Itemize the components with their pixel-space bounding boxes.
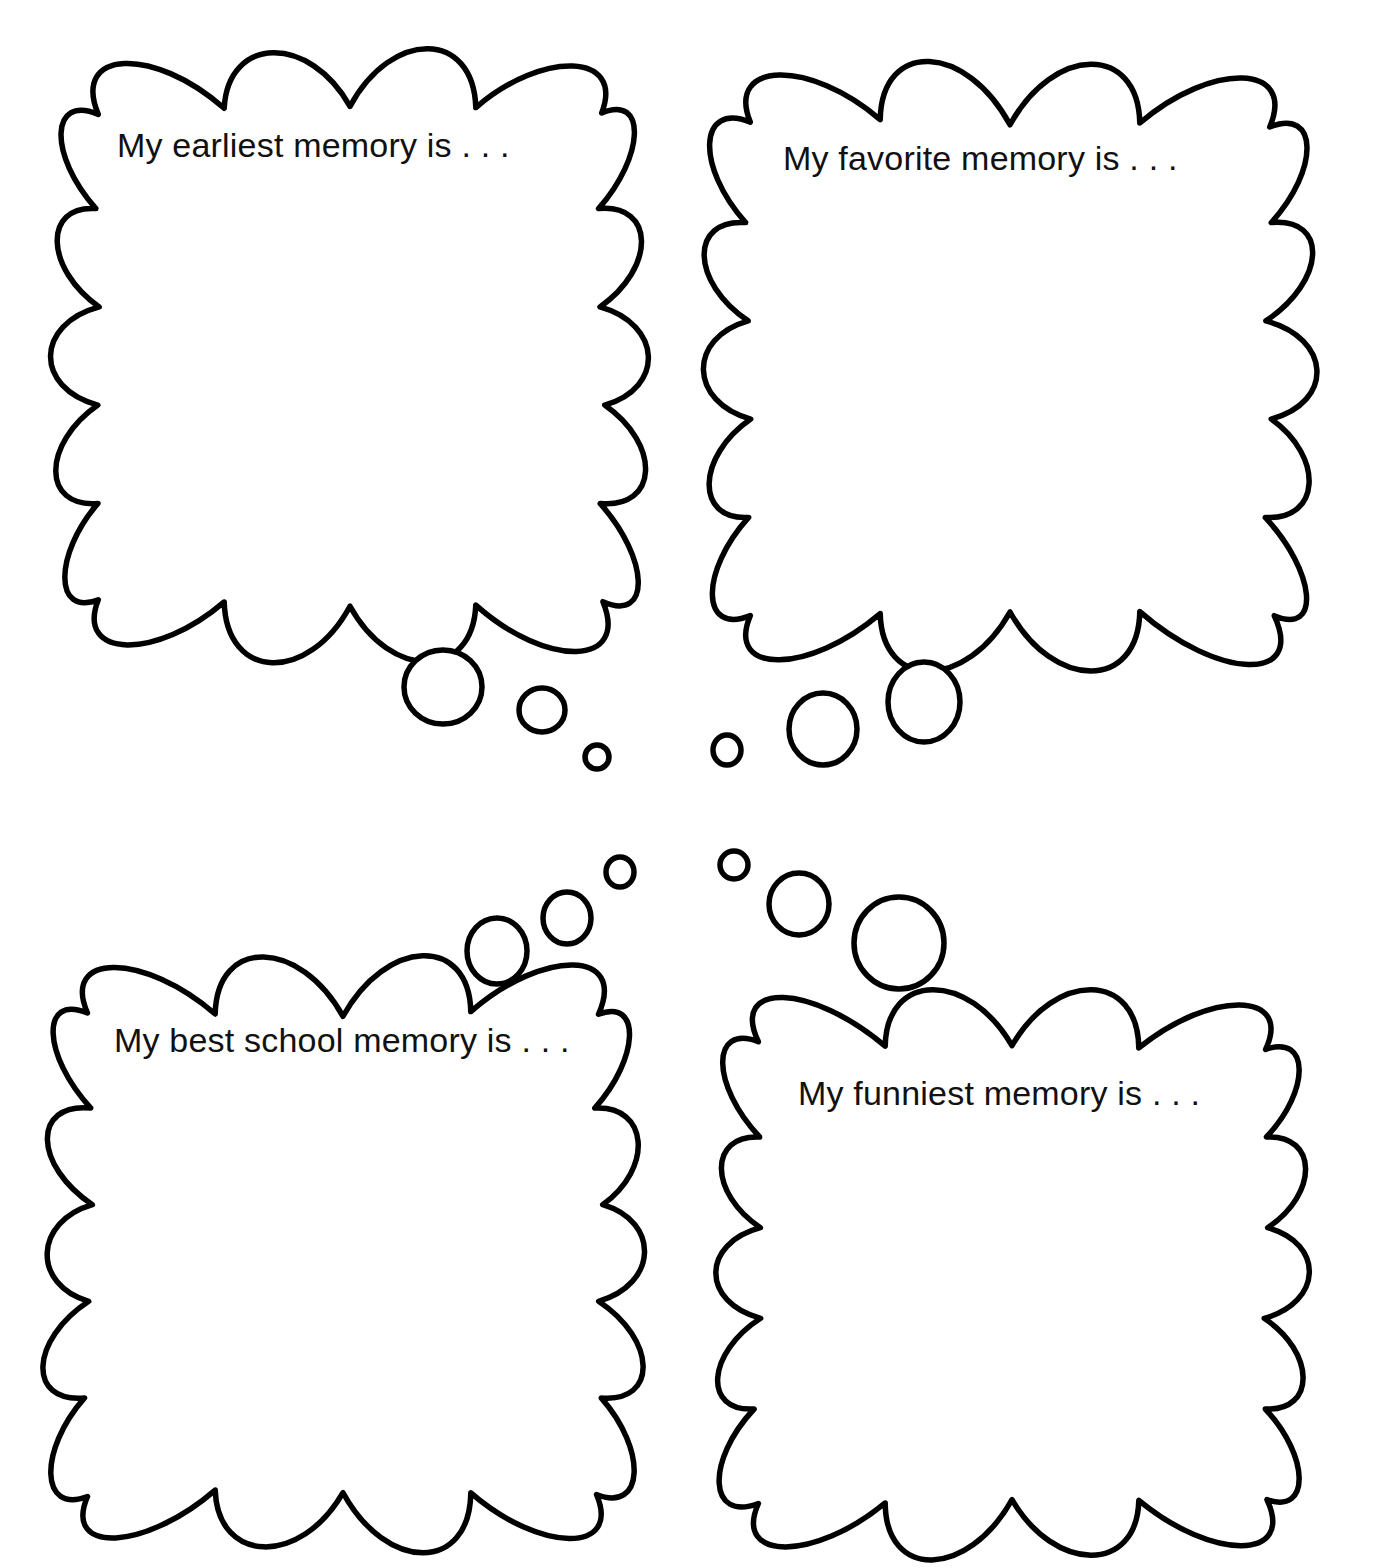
thought-bubble-favorite-memory[interactable]: My favorite memory is . . .	[703, 61, 1317, 671]
tail-bubble-tail-funniest-2	[769, 873, 829, 935]
thought-bubbles-canvas: My earliest memory is . . .My favorite m…	[0, 0, 1383, 1568]
thought-bubble-funniest-memory[interactable]: My funniest memory is . . .	[716, 990, 1309, 1560]
prompt-label-earliest-memory: My earliest memory is . . .	[117, 126, 510, 164]
tail-bubble-tail-favorite-3	[713, 735, 741, 765]
tail-bubble-tail-favorite-1	[888, 662, 960, 742]
tail-bubble-tail-earliest-2	[519, 688, 565, 732]
prompt-label-funniest-memory: My funniest memory is . . .	[798, 1074, 1200, 1112]
tail-bubble-tail-school-2	[543, 892, 591, 944]
tail-bubble-tail-funniest-1	[854, 897, 944, 989]
tail-bubble-tail-favorite-2	[789, 693, 857, 765]
thought-bubble-best-school-memory[interactable]: My best school memory is . . .	[43, 956, 645, 1553]
thought-bubble-earliest-memory[interactable]: My earliest memory is . . .	[51, 49, 649, 663]
tail-bubble-tail-earliest-1	[404, 650, 482, 724]
tail-bubble-tail-earliest-3	[585, 745, 609, 769]
prompt-label-favorite-memory: My favorite memory is . . .	[783, 139, 1178, 177]
worksheet-page: My earliest memory is . . .My favorite m…	[0, 0, 1383, 1568]
tail-bubble-tail-school-3	[606, 857, 634, 887]
tail-bubble-tail-school-1	[467, 918, 527, 984]
tail-bubble-tail-funniest-3	[720, 851, 748, 879]
prompt-label-best-school-memory: My best school memory is . . .	[114, 1021, 570, 1059]
